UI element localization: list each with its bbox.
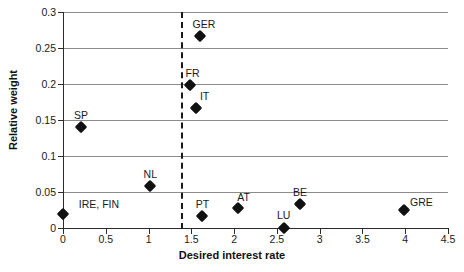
data-point-label: BE xyxy=(293,187,307,198)
x-tick-label: 3 xyxy=(300,234,340,245)
data-point-label: AT xyxy=(237,192,250,203)
x-tick-label: 2.5 xyxy=(257,234,297,245)
data-point-marker xyxy=(398,204,411,217)
threshold-line xyxy=(181,12,183,229)
gridline xyxy=(63,156,448,157)
y-tick-label: 0.3 xyxy=(0,7,65,17)
data-point-label: GER xyxy=(192,19,215,30)
x-tick-label: 3.5 xyxy=(342,234,382,245)
y-tick-label: 0.15 xyxy=(0,115,65,125)
x-tick-label: 0.5 xyxy=(86,234,126,245)
y-tick-label: 0 xyxy=(0,223,65,233)
data-point-marker xyxy=(189,101,202,114)
y-tick-label: 0.05 xyxy=(0,187,65,197)
data-point-label: NL xyxy=(144,169,157,180)
data-point-marker xyxy=(231,201,244,214)
gridline xyxy=(63,12,448,13)
data-point-marker xyxy=(75,121,88,134)
x-axis-title: Desired interest rate xyxy=(0,249,464,261)
gridline xyxy=(63,192,448,193)
gridline xyxy=(63,84,448,85)
x-tick-label: 0 xyxy=(43,234,83,245)
data-point-label: GRE xyxy=(410,197,433,208)
scatter-chart: Relative weight 00.050.10.150.20.250.3 0… xyxy=(0,0,464,272)
data-point-marker xyxy=(57,207,70,220)
y-tick-label: 0.1 xyxy=(0,151,65,161)
data-point-marker xyxy=(194,29,207,42)
x-tick-label: 1.5 xyxy=(171,234,211,245)
data-point-marker xyxy=(294,198,307,211)
x-tick-label: 4.5 xyxy=(428,234,464,245)
data-point-marker xyxy=(144,179,157,192)
x-axis-line xyxy=(63,228,449,229)
y-tick-label: 0.25 xyxy=(0,43,65,53)
data-point-label: FR xyxy=(185,68,199,79)
data-point-marker xyxy=(196,209,209,222)
x-tick-label: 1 xyxy=(129,234,169,245)
y-tick-label: 0.2 xyxy=(0,79,65,89)
data-point-label: SP xyxy=(74,110,88,121)
data-point-label: PT xyxy=(196,199,209,210)
gridline xyxy=(63,48,448,49)
x-tick-label: 4 xyxy=(385,234,425,245)
data-point-label: LU xyxy=(277,210,290,221)
gridline xyxy=(63,120,448,121)
data-point-label: IT xyxy=(200,91,209,102)
data-point-marker xyxy=(184,78,197,91)
y-axis-line xyxy=(63,12,64,229)
x-tick-label: 2 xyxy=(214,234,254,245)
data-point-label: IRE, FIN xyxy=(79,199,119,210)
